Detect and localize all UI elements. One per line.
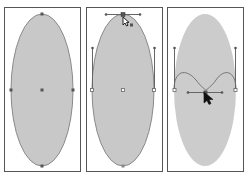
anchor-point-bottom <box>122 165 125 168</box>
handle-end-right <box>234 47 237 50</box>
anchor-point-bottom <box>41 165 44 168</box>
handle-end-top-left <box>105 13 108 16</box>
panel-2 <box>87 8 163 172</box>
anchor-point-center <box>41 89 44 92</box>
anchor-point-left <box>10 89 13 92</box>
anchor-point-right <box>234 89 237 92</box>
ellipse-edit-diagram <box>0 0 247 175</box>
panel-3 <box>168 8 244 172</box>
handle-end-left <box>173 47 176 50</box>
handle-end-left <box>91 47 94 50</box>
anchor-point-left <box>91 89 94 92</box>
anchor-point-center <box>122 89 125 92</box>
anchor-point-top <box>41 13 44 16</box>
handle-end-center-left <box>187 91 190 94</box>
anchor-point-right <box>72 89 75 92</box>
anchor-point-top-selected <box>121 13 125 17</box>
handle-end-right <box>153 47 156 50</box>
handle-end-center-right <box>221 91 224 94</box>
anchor-point-left <box>173 89 176 92</box>
panel-1 <box>5 8 81 172</box>
handle-end-top-right <box>139 13 142 16</box>
anchor-point-right <box>153 89 156 92</box>
